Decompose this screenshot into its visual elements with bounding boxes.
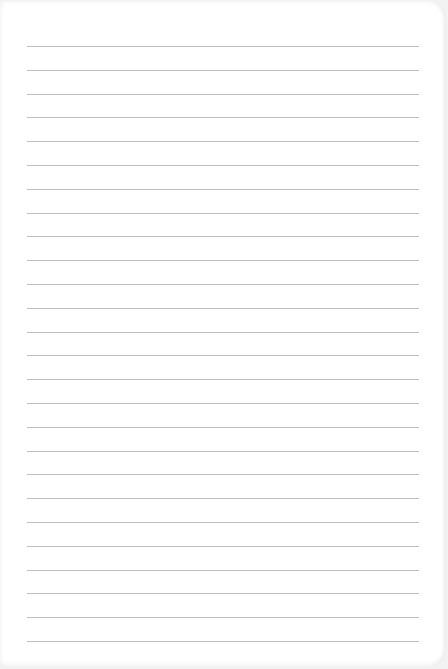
ruled-line (27, 427, 419, 428)
ruled-line (27, 546, 419, 547)
ruled-line (27, 236, 419, 237)
ruled-line (27, 617, 419, 618)
ruled-line (27, 94, 419, 95)
ruled-line (27, 403, 419, 404)
ruled-line (27, 474, 419, 475)
ruled-line (27, 308, 419, 309)
ruled-line (27, 70, 419, 71)
ruled-line (27, 641, 419, 642)
ruled-line (27, 141, 419, 142)
ruled-line (27, 189, 419, 190)
ruled-line (27, 593, 419, 594)
ruled-line (27, 260, 419, 261)
ruled-line (27, 284, 419, 285)
ruled-line (27, 498, 419, 499)
ruled-line (27, 451, 419, 452)
ruled-line (27, 570, 419, 571)
ruled-lines (27, 0, 419, 669)
ruled-line (27, 522, 419, 523)
lined-paper (0, 0, 446, 667)
ruled-line (27, 165, 419, 166)
ruled-line (27, 379, 419, 380)
ruled-line (27, 355, 419, 356)
ruled-line (27, 117, 419, 118)
ruled-line (27, 213, 419, 214)
ruled-line (27, 46, 419, 47)
ruled-line (27, 332, 419, 333)
